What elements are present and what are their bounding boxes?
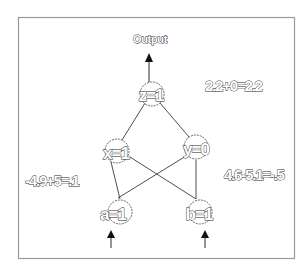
node-a-label: a=1: [100, 205, 126, 224]
equation-x: -4.9+5=.1: [25, 172, 79, 189]
node-z-label: z=1: [139, 86, 164, 105]
network-diagram: Output z=1 x=1 y=0 a=1 b=1 2.2+0=2.2 -4.…: [0, 0, 306, 275]
output-label: Output: [133, 33, 168, 45]
equation-z: 2.2+0=2.2: [205, 77, 263, 94]
node-z: z=1: [139, 82, 164, 106]
node-b-label: b=1: [186, 205, 213, 224]
diagram-frame: [19, 18, 295, 259]
equation-y: 4.6-5.1=-.5: [224, 166, 285, 183]
node-y-label: y=0: [183, 140, 209, 159]
node-x-label: x=1: [103, 144, 129, 163]
